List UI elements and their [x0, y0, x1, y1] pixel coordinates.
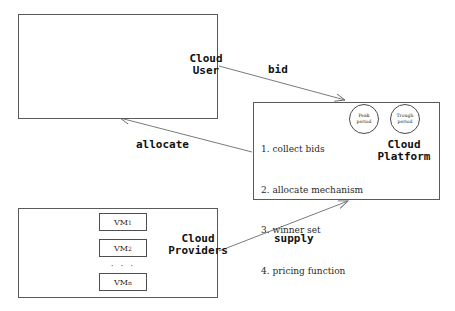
vm-name: VM	[114, 278, 128, 287]
peak-period-circle: Peakperiod	[349, 104, 379, 134]
platform-step-list: 1. collect bids 2. allocate mechanism 3.…	[261, 116, 379, 305]
diagram-canvas: CloudUser CloudProviders VM1 VM2 · · · V…	[0, 0, 455, 311]
vm-subscript: 1	[128, 219, 132, 226]
vm-ellipsis: · · ·	[99, 261, 147, 271]
platform-step-1: 1. collect bids	[261, 143, 379, 157]
vm-name: VM	[114, 244, 128, 253]
vm-item-n: VMn	[99, 273, 147, 291]
peak-period-label: Peakperiod	[356, 113, 371, 124]
vm-subscript: 2	[128, 245, 132, 252]
vm-name: VM	[114, 218, 128, 227]
supply-edge-label: supply	[274, 232, 314, 245]
trough-period-circle: Troughperiod	[390, 104, 420, 134]
cloud-user-label: CloudUser	[178, 53, 234, 77]
platform-step-2: 2. allocate mechanism	[261, 184, 379, 198]
trough-period-label: Troughperiod	[397, 113, 414, 124]
cloud-providers-label: CloudProviders	[160, 233, 236, 257]
platform-step-4: 4. pricing function	[261, 265, 379, 279]
vm-item-1: VM1	[99, 213, 147, 231]
vm-subscript: n	[128, 279, 132, 286]
allocate-edge-label: allocate	[136, 138, 189, 151]
cloud-platform-label: CloudPlatform	[368, 139, 440, 163]
bid-edge-label: bid	[268, 63, 288, 76]
vm-item-2: VM2	[99, 239, 147, 257]
